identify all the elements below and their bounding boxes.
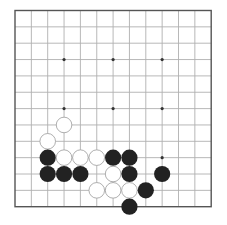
black-stone bbox=[56, 166, 72, 182]
star-point-icon bbox=[62, 58, 65, 61]
stones-layer bbox=[40, 117, 171, 215]
white-stone bbox=[73, 150, 89, 166]
white-stone bbox=[56, 150, 72, 166]
white-stone bbox=[105, 183, 121, 199]
star-point-icon bbox=[161, 156, 164, 159]
go-board[interactable] bbox=[0, 0, 227, 225]
star-point-icon bbox=[112, 107, 115, 110]
star-point-icon bbox=[161, 107, 164, 110]
white-stone bbox=[105, 166, 121, 182]
black-stone bbox=[40, 166, 56, 182]
white-stone bbox=[89, 150, 105, 166]
star-point-icon bbox=[112, 58, 115, 61]
white-stone bbox=[122, 183, 138, 199]
black-stone bbox=[40, 150, 56, 166]
black-stone bbox=[121, 199, 137, 215]
black-stone bbox=[154, 166, 170, 182]
black-stone bbox=[72, 166, 88, 182]
star-point-icon bbox=[161, 58, 164, 61]
star-point-icon bbox=[62, 107, 65, 110]
white-stone bbox=[89, 183, 105, 199]
black-stone bbox=[121, 166, 137, 182]
black-stone bbox=[105, 150, 121, 166]
go-board-canvas[interactable] bbox=[0, 0, 227, 225]
white-stone bbox=[40, 134, 56, 150]
black-stone bbox=[121, 150, 137, 166]
white-stone bbox=[56, 117, 72, 133]
black-stone bbox=[138, 182, 154, 198]
